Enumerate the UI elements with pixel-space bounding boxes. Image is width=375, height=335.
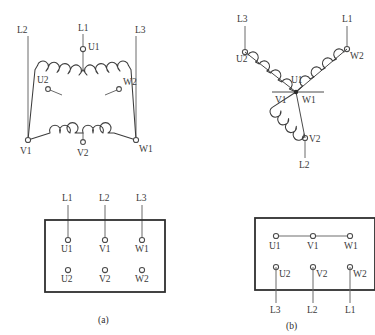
box-b-terminal-w1 [347,233,352,238]
wye-label-w1: W1 [302,95,316,105]
delta-label-l3: L3 [135,25,146,35]
wye-label-v1: V1 [275,95,287,105]
box-a-label-v1: V1 [99,244,111,254]
caption-b: (b) [286,321,297,332]
wye-label-w2: W2 [350,51,364,61]
box-b-label-u1: U1 [269,241,281,251]
wye-label-v2: V2 [309,134,321,144]
delta-terminal-w2-lead [105,87,121,95]
delta-terminal-w1 [133,137,138,142]
box-a-label-u1: U1 [61,244,73,254]
delta-terminal-v2-lead [81,133,86,144]
box-a-terminal-w2 [139,267,144,272]
delta-terminal-u1 [80,46,85,51]
delta-terminal-u2 [46,87,51,92]
wye-label-l2: L2 [299,160,310,170]
delta-winding-left [28,61,83,140]
terminal-box-wye: U1 V1 W1 U2 V2 W2 L3 L2 L1 (b) [255,218,375,332]
box-b-label-l1: L1 [345,305,356,315]
wye-star-point-node [294,90,298,94]
delta-winding-right [83,61,136,140]
box-b-label-u2: U2 [279,269,291,279]
delta-label-l1: L1 [78,23,89,33]
box-a-terminal-v2 [102,267,107,272]
terminal-box-delta: L1 L2 L3 U1 V1 W1 U2 V2 W2 (a) [45,193,165,326]
motor-winding-connection-figure: L2 L1 L3 U2 W2 [0,0,375,335]
delta-terminal-u2-lead [46,87,62,95]
delta-terminal-w2 [117,87,122,92]
box-b-terminal-v1 [310,233,315,238]
box-b-outline [255,218,375,290]
wye-label-l3: L3 [237,14,248,24]
box-b-label-l3: L3 [270,305,281,315]
delta-terminal-v1 [25,137,30,142]
box-b-label-l2: L2 [307,305,318,315]
box-b-label-v2: V2 [316,269,328,279]
box-a-terminal-u2 [65,267,70,272]
box-a-label-w1: W1 [135,244,149,254]
box-b-label-w2: W2 [353,269,367,279]
delta-label-u1: U1 [88,42,100,52]
box-a-label-l2: L2 [99,193,110,203]
box-a-label-l1: L1 [62,193,73,203]
box-b-label-w1: W1 [344,241,358,251]
wye-label-u2: U2 [236,54,248,64]
box-b-terminal-u1 [273,233,278,238]
wye-label-u1: U1 [291,75,303,85]
delta-winding-bottom [28,123,136,140]
delta-label-w2: W2 [123,77,137,87]
box-b-label-v1: V1 [307,241,319,251]
delta-label-w1: W1 [139,144,153,154]
delta-label-l2: L2 [17,25,28,35]
delta-terminal-v2 [81,140,86,145]
wye-leg-u2-outer [245,52,296,92]
delta-connection-diagram: L2 L1 L3 U2 W2 [17,23,153,158]
box-a-label-w2: W2 [135,274,149,284]
box-a-label-u2: U2 [61,274,73,284]
box-a-terminal-u1 [65,237,70,242]
wye-label-l1: L1 [342,14,353,24]
delta-label-v2: V2 [77,148,89,158]
box-a-label-v2: V2 [99,274,111,284]
box-a-terminal-w1 [139,237,144,242]
caption-a: (a) [98,315,109,326]
delta-label-v1: V1 [20,146,32,156]
delta-label-u2: U2 [37,75,49,85]
box-a-label-l3: L3 [136,193,147,203]
wye-connection-diagram: L3 L1 L2 U2 W2 V2 U1 V1 W1 [236,14,364,170]
box-a-terminal-v1 [102,237,107,242]
